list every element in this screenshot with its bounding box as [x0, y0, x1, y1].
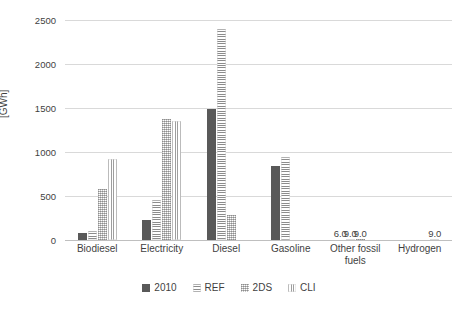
y-axis-tick-2000: 2000 — [0, 59, 56, 70]
bar-2010-biodiesel — [78, 233, 87, 240]
x-label-hydrogen: Hydrogen — [388, 243, 453, 255]
x-label-electricity: Electricity — [130, 243, 195, 255]
bar-group-biodiesel — [65, 20, 130, 240]
y-axis-tick-500: 500 — [0, 191, 56, 202]
legend-label: 2DS — [253, 283, 272, 293]
bar-ref-diesel — [217, 29, 226, 240]
bar-chart: [GWh] 05001000150020002500 6.09.09.09.0 … — [0, 0, 458, 309]
legend-swatch-icon — [142, 284, 150, 292]
legend-item-ref[interactable]: REF — [193, 283, 225, 293]
bar-group-gasoline — [259, 20, 324, 240]
bar-ref-other-fossil-fuels: 9.0 — [346, 239, 355, 240]
bar-2010-diesel — [207, 109, 216, 240]
legend-swatch-icon — [241, 284, 249, 292]
bar-cli-hydrogen: 9.0 — [430, 239, 439, 240]
x-label-gasoline: Gasoline — [259, 243, 324, 255]
legend-swatch-icon — [288, 284, 296, 292]
bar-group-electricity — [130, 20, 195, 240]
bar-2ds-electricity — [162, 119, 171, 240]
chart-legend: 2010REF2DSCLI — [0, 283, 458, 293]
y-axis-tick-2500: 2500 — [0, 15, 56, 26]
legend-item-cli[interactable]: CLI — [288, 283, 316, 293]
legend-swatch-icon — [193, 284, 201, 292]
bar-value-label: 9.0 — [354, 229, 367, 239]
bar-2ds-diesel — [227, 215, 236, 240]
bar-group-other-fossil-fuels: 6.09.09.0 — [323, 20, 388, 240]
legend-item-2ds[interactable]: 2DS — [241, 283, 272, 293]
gridline-0 — [65, 240, 452, 241]
bar-ref-gasoline — [281, 157, 290, 240]
bar-value-label: 9.0 — [428, 229, 441, 239]
bar-2010-gasoline — [271, 166, 280, 240]
y-axis-tick-labels: 05001000150020002500 — [0, 0, 62, 309]
legend-label: CLI — [300, 283, 316, 293]
legend-item-2010[interactable]: 2010 — [142, 283, 176, 293]
bar-2ds-other-fossil-fuels: 9.0 — [356, 239, 365, 240]
bar-2ds-biodiesel — [98, 189, 107, 240]
bar-group-diesel — [194, 20, 259, 240]
bar-2010-electricity — [142, 220, 151, 240]
y-axis-tick-1500: 1500 — [0, 103, 56, 114]
bar-ref-biodiesel — [88, 231, 97, 240]
x-label-biodiesel: Biodiesel — [65, 243, 130, 255]
plot-area: 6.09.09.09.0 — [65, 20, 452, 240]
bar-2010-other-fossil-fuels: 6.0 — [336, 239, 345, 240]
x-label-diesel: Diesel — [194, 243, 259, 255]
bar-ref-electricity — [152, 200, 161, 240]
y-axis-tick-1000: 1000 — [0, 147, 56, 158]
bar-cli-electricity — [172, 121, 181, 240]
legend-label: REF — [205, 283, 225, 293]
legend-label: 2010 — [154, 283, 176, 293]
x-axis-category-labels: BiodieselElectricityDieselGasolineOther … — [65, 243, 452, 281]
bar-group-hydrogen: 9.0 — [388, 20, 453, 240]
x-label-other-fossil-fuels: Other fossil fuels — [323, 243, 388, 267]
bar-cli-biodiesel — [108, 159, 117, 240]
y-axis-tick-0: 0 — [0, 235, 56, 246]
